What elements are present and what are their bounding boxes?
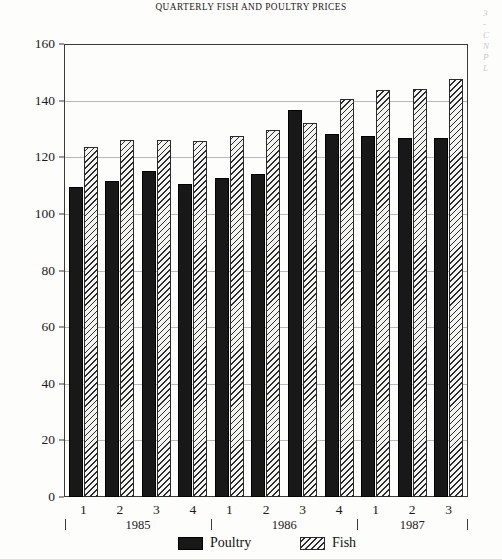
year-separator-tick — [357, 519, 358, 530]
chart-title: QUARTERLY FISH AND POULTRY PRICES — [0, 2, 502, 12]
bar-fish — [193, 141, 207, 497]
bar-fish — [230, 136, 244, 497]
bar-fish — [303, 123, 317, 497]
x-axis-tick-label: 3 — [299, 503, 306, 517]
bar-fish — [449, 79, 463, 497]
bar-poultry — [325, 134, 339, 497]
bar-poultry — [434, 138, 448, 497]
bar-group — [211, 45, 248, 497]
legend-swatch-poultry-icon — [178, 537, 203, 550]
y-axis-tick-label: 120 — [35, 151, 55, 165]
x-axis-year-label: 1987 — [400, 519, 425, 532]
y-axis-tick-label: 0 — [48, 490, 55, 504]
bar-group — [138, 45, 175, 497]
y-axis-tick-label: 160 — [35, 37, 55, 51]
bar-fish — [84, 147, 98, 497]
y-axis: 020406080100120140160 — [0, 0, 64, 560]
x-axis-tick-label: 1 — [80, 503, 87, 517]
margin-note-line: 3 — [483, 8, 501, 19]
bar-poultry — [105, 181, 119, 497]
bar-group — [248, 45, 285, 497]
x-axis-tick-label: 4 — [190, 503, 197, 517]
bar-fish — [340, 99, 354, 497]
legend-swatch-fish-icon — [300, 537, 325, 550]
y-axis-tick-label: 60 — [42, 320, 56, 334]
margin-note-line: - — [483, 19, 501, 30]
x-axis-tick-label: 2 — [263, 503, 270, 517]
bar-fish — [413, 89, 427, 497]
page-margin-note: 3-CNPL — [483, 8, 501, 74]
bar-poultry — [142, 171, 156, 497]
x-axis-tick-label: 1 — [226, 503, 233, 517]
legend-label: Fish — [332, 536, 356, 550]
bar-group — [65, 45, 102, 497]
x-axis-tick-label: 2 — [409, 503, 416, 517]
year-separator-tick — [65, 519, 66, 530]
bar-group — [175, 45, 212, 497]
x-axis-tick-label: 2 — [116, 503, 123, 517]
bars-container — [65, 45, 467, 497]
bar-poultry — [215, 178, 229, 497]
bar-poultry — [288, 110, 302, 497]
y-axis-tick-label: 140 — [35, 94, 55, 108]
bar-group — [394, 45, 431, 497]
bar-fish — [157, 140, 171, 497]
x-axis-tick-label: 4 — [336, 503, 343, 517]
chart-figure: QUARTERLY FISH AND POULTRY PRICES 020406… — [0, 0, 502, 560]
bar-fish — [266, 130, 280, 497]
x-axis-tick-label: 3 — [445, 503, 452, 517]
bar-poultry — [361, 136, 375, 497]
bar-group — [321, 45, 358, 497]
bar-fish — [376, 90, 390, 497]
margin-note-line: C — [483, 30, 501, 41]
bar-group — [284, 45, 321, 497]
x-axis-tick-label: 3 — [153, 503, 160, 517]
year-separator-tick — [467, 519, 468, 530]
bar-poultry — [178, 184, 192, 497]
legend-label: Poultry — [210, 536, 251, 550]
margin-note-line: L — [483, 63, 501, 74]
legend-item-fish[interactable]: Fish — [300, 535, 356, 551]
y-axis-tick-label: 100 — [35, 207, 55, 221]
x-axis-year-label: 1985 — [126, 519, 151, 532]
chart-legend: PoultryFish — [0, 535, 502, 557]
y-axis-tick-label: 20 — [42, 434, 56, 448]
margin-note-line: N — [483, 41, 501, 52]
x-axis-year-label: 1986 — [272, 519, 297, 532]
bar-fish — [120, 140, 134, 497]
bar-group — [357, 45, 394, 497]
bar-poultry — [251, 174, 265, 497]
year-separator-tick — [211, 519, 212, 530]
x-axis-tick-label: 1 — [372, 503, 379, 517]
bar-group — [102, 45, 139, 497]
bar-group — [430, 45, 467, 497]
bar-poultry — [69, 187, 83, 497]
y-axis-tick-label: 40 — [42, 377, 56, 391]
legend-item-poultry[interactable]: Poultry — [178, 535, 251, 551]
margin-note-line: P — [483, 52, 501, 63]
bar-poultry — [398, 138, 412, 497]
y-axis-tick-label: 80 — [42, 264, 56, 278]
